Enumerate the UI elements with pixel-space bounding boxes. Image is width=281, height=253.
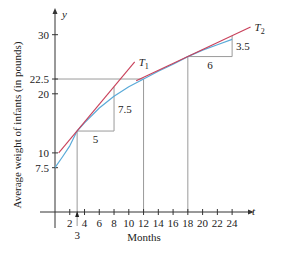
tangent-label-t2: T2	[255, 21, 265, 36]
tangent-label-t1: T1	[139, 56, 149, 71]
x-tick-label: 6	[97, 217, 103, 229]
x-tick-label: 2	[67, 217, 73, 229]
x-tick-label: 16	[168, 217, 180, 229]
run-label: 5	[93, 133, 99, 145]
x-tick-label: 8	[111, 217, 117, 229]
y-tick-label: 10	[38, 147, 50, 159]
tangent-line-t2	[136, 27, 250, 81]
x-tick-label: 22	[212, 217, 223, 229]
chart: 246810121416182022247.5102022.530357.563…	[0, 0, 281, 253]
y-tick-label: 7.5	[35, 162, 49, 174]
x-tick-label: 20	[197, 217, 209, 229]
y-tick-label: 20	[38, 88, 50, 100]
x-tick-label: 4	[82, 217, 88, 229]
x-tick-label: 14	[153, 217, 165, 229]
x-axis-symbol: t	[252, 205, 256, 217]
x-tick-label: 18	[182, 217, 194, 229]
y-tick-label: 22.5	[30, 73, 50, 85]
rise-label: 3.5	[236, 40, 250, 52]
y-axis-symbol: y	[61, 8, 67, 20]
series	[55, 27, 251, 168]
rise-label: 7.5	[118, 103, 132, 115]
labels: 246810121416182022247.5102022.530357.563…	[30, 21, 265, 241]
x-tick-label: 24	[227, 217, 239, 229]
x-marker-label: 3	[74, 229, 80, 241]
y-tick-label: 30	[38, 29, 50, 41]
y-axis-arrow-icon	[53, 8, 58, 14]
x-tick-label: 12	[138, 217, 149, 229]
y-axis-title: Average weight of infants (in pounds)	[11, 41, 24, 208]
x-tick-label: 10	[123, 217, 135, 229]
x-axis-title: Months	[127, 231, 161, 243]
run-label: 6	[207, 59, 213, 71]
